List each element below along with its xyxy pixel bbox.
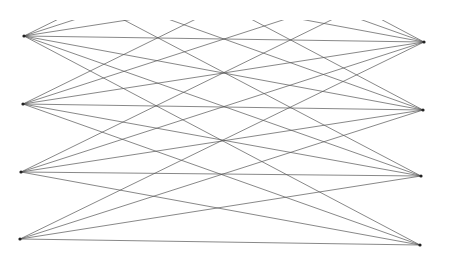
edge-line-clipped	[24, 0, 426, 36]
edge-lines	[20, 0, 427, 245]
edge-line-clipped	[24, 0, 427, 36]
left-node-point	[18, 237, 21, 240]
edge-line	[24, 36, 421, 176]
edge-line	[20, 239, 420, 245]
edge-line-clipped	[23, 0, 425, 104]
right-node-point	[421, 108, 424, 111]
edge-line	[20, 176, 421, 239]
edge-line	[20, 110, 423, 239]
edge-line	[21, 172, 421, 176]
edge-line-clipped	[25, 0, 423, 110]
left-node-point	[19, 170, 22, 173]
line-diagram	[0, 0, 450, 259]
left-node-point	[21, 102, 24, 105]
edge-line	[21, 42, 424, 172]
right-node-point	[422, 40, 425, 43]
edge-line-clipped	[23, 0, 426, 104]
left-node-point	[22, 34, 25, 37]
right-node-point	[419, 174, 422, 177]
edge-line-clipped	[26, 0, 424, 42]
edge-line-clipped	[26, 0, 423, 110]
edge-line	[21, 172, 420, 245]
right-node-point	[418, 243, 421, 246]
